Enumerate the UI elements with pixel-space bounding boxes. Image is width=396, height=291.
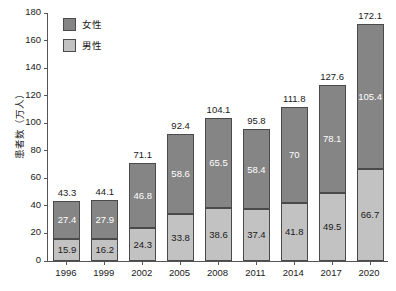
bar-segment-female[interactable]: 58.4 [243,129,270,209]
y-tick-label: 60 [30,171,41,182]
bar-group[interactable]: 49.578.1127.6 [319,85,346,261]
bar-value-male: 16.2 [96,245,115,255]
x-axis-label: 2017 [312,267,350,278]
bar-segment-female[interactable]: 70 [281,107,308,203]
bar-total-label: 95.8 [247,115,266,126]
y-tick-mark [44,178,48,179]
y-tick-mark [44,123,48,124]
bar-value-male: 33.8 [171,233,190,243]
y-tick-mark [44,150,48,151]
y-tick-mark [44,40,48,41]
bar-total-label: 104.1 [207,104,231,115]
y-tick-label: 100 [25,116,41,127]
y-tick-mark [44,233,48,234]
x-tick-mark [332,261,333,265]
bar-segment-male[interactable]: 41.8 [281,203,308,261]
bar-group[interactable]: 24.346.871.1 [129,163,156,261]
bar-total-label: 71.1 [133,149,152,160]
y-tick-label: 180 [25,6,41,17]
bar-value-male: 15.9 [58,245,77,255]
bar-value-female: 70 [289,150,300,160]
bar-segment-female[interactable]: 46.8 [129,163,156,227]
bar-value-female: 65.5 [209,158,228,168]
bar-value-male: 38.6 [209,230,228,240]
bar-segment-male[interactable]: 15.9 [53,239,80,261]
legend-swatch-male-icon [63,39,76,52]
legend-label-male: 男性 [82,41,102,51]
x-tick-mark [66,261,67,265]
bar-group[interactable]: 37.458.495.8 [243,129,270,261]
x-tick-mark [180,261,181,265]
bar-segment-female[interactable]: 27.4 [53,201,80,239]
x-axis-label: 2011 [236,267,274,278]
bar-group[interactable]: 66.7105.4172.1 [357,24,384,261]
x-axis-label: 2020 [350,267,388,278]
bar-value-male: 37.4 [247,230,266,240]
y-tick-label: 20 [30,226,41,237]
bar-group[interactable]: 38.665.5104.1 [205,118,232,261]
bar-segment-male[interactable]: 38.6 [205,208,232,261]
bar-value-male: 66.7 [361,210,380,220]
x-tick-mark [218,261,219,265]
bar-total-label: 92.4 [171,120,190,131]
bar-total-label: 172.1 [358,10,382,21]
bar-value-male: 24.3 [133,240,152,250]
bar-total-label: 44.1 [96,186,115,197]
bar-total-label: 111.8 [283,93,305,104]
bar-segment-female[interactable]: 65.5 [205,118,232,208]
bar-segment-male[interactable]: 24.3 [129,228,156,261]
bar-value-female: 58.6 [171,169,190,179]
y-tick-mark [44,261,48,262]
bar-segment-female[interactable]: 58.6 [167,134,194,215]
chart-legend: 女性 男性 [63,18,102,60]
y-tick-label: 140 [25,61,41,72]
bar-total-label: 127.6 [320,71,344,82]
stacked-bar-chart: 患者数（万人） 020406080100120140160180 15.927.… [0,0,396,291]
bar-value-female: 27.4 [58,215,77,225]
bar-group[interactable]: 41.870111.8 [281,107,308,261]
legend-item-female: 女性 [63,18,102,31]
x-tick-mark [142,261,143,265]
bar-segment-male[interactable]: 16.2 [91,239,118,261]
legend-item-male: 男性 [63,39,102,52]
bar-segment-female[interactable]: 78.1 [319,85,346,193]
x-axis-label: 1996 [47,267,85,278]
bar-segment-male[interactable]: 33.8 [167,214,194,261]
bar-segment-female[interactable]: 105.4 [357,24,384,169]
bar-segment-male[interactable]: 66.7 [357,169,384,261]
bar-segment-male[interactable]: 49.5 [319,193,346,261]
x-tick-mark [294,261,295,265]
x-axis-label: 2008 [199,267,237,278]
y-tick-label: 80 [30,144,41,155]
bar-value-female: 58.4 [247,165,266,175]
bar-total-label: 43.3 [58,187,77,198]
y-tick-label: 120 [25,89,41,100]
y-tick-mark [44,68,48,69]
x-axis-label: 2002 [123,267,161,278]
bar-group[interactable]: 16.227.944.1 [91,200,118,261]
x-tick-mark [104,261,105,265]
y-tick-mark [44,95,48,96]
x-axis-label: 2014 [274,267,312,278]
y-tick-mark [44,13,48,14]
bar-group[interactable]: 33.858.692.4 [167,134,194,261]
y-axis-title: 患者数（万人） [12,64,26,184]
y-tick-label: 0 [36,254,41,265]
x-tick-mark [256,261,257,265]
y-tick-label: 160 [25,34,41,45]
bar-value-female: 105.4 [358,92,382,102]
y-tick-label: 40 [30,199,41,210]
y-tick-mark [44,205,48,206]
bar-value-female: 27.9 [96,215,115,225]
bar-group[interactable]: 15.927.443.3 [53,201,80,261]
bar-value-female: 78.1 [323,134,342,144]
legend-swatch-female-icon [63,18,76,31]
bar-value-female: 46.8 [133,191,152,201]
bar-segment-female[interactable]: 27.9 [91,200,118,238]
bar-segment-male[interactable]: 37.4 [243,209,270,261]
x-axis-label: 2005 [161,267,199,278]
x-axis-label: 1999 [85,267,123,278]
bar-value-male: 41.8 [285,227,304,237]
bar-value-male: 49.5 [323,222,342,232]
x-tick-mark [370,261,371,265]
